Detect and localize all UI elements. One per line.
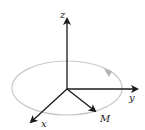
y-axis-label: y (128, 92, 135, 103)
z-axis-label: z (59, 9, 66, 20)
diagram-canvas: z y x M (0, 0, 145, 130)
x-axis (31, 89, 67, 122)
x-axis-label: x (41, 118, 47, 129)
vector-label: M (99, 113, 111, 124)
coordinate-diagram: z y x M (0, 0, 145, 130)
magnetization-vector (67, 89, 95, 111)
orbit-arrow-icon (104, 69, 112, 77)
